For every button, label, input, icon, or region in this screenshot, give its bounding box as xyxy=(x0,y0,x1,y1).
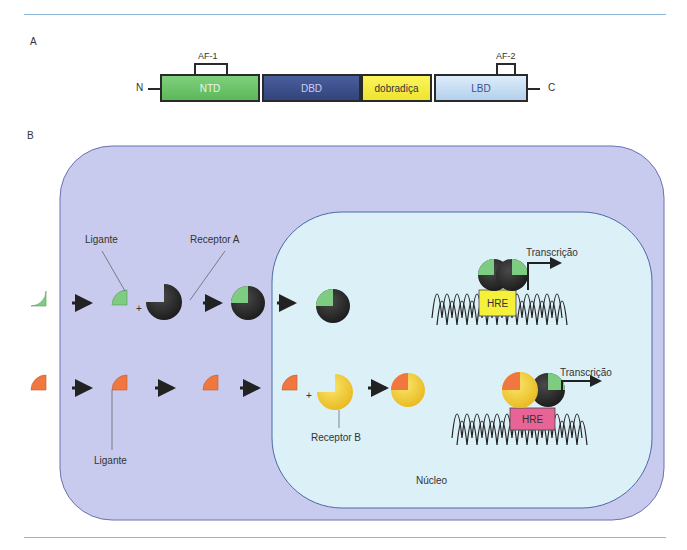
hre-label-top: HRE xyxy=(487,298,508,309)
plus-top: + xyxy=(136,303,142,314)
ligand-a-label: Ligante xyxy=(85,234,118,245)
nucleus-label: Núcleo xyxy=(416,475,448,486)
complex-a-cytoplasm xyxy=(231,286,265,320)
receptor-a-dimer xyxy=(478,259,528,291)
receptor-b-label: Receptor B xyxy=(311,432,361,443)
bottom-rule xyxy=(24,537,666,538)
hre-label-bottom: HRE xyxy=(522,414,543,425)
ligand-b-outside xyxy=(31,375,46,390)
transcription-label-bottom: Transcrição xyxy=(560,367,612,378)
complex-b-nucleus xyxy=(391,373,425,407)
transcription-label-top: Transcrição xyxy=(526,247,578,258)
receptor-a-label: Receptor A xyxy=(190,234,240,245)
ligand-a-outside xyxy=(31,291,46,306)
nucleus xyxy=(272,212,652,508)
plus-bottom: + xyxy=(306,390,312,401)
pathway-diagram: Ligante + Receptor A HRE Transcrição Lig… xyxy=(0,0,687,550)
complex-a-nucleus xyxy=(316,289,350,323)
ligand-b-label: Ligante xyxy=(94,455,127,466)
